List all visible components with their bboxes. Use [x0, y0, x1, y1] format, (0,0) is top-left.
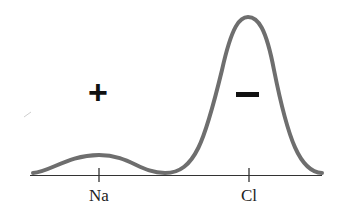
density-curve [33, 17, 322, 173]
positive-charge-sign: + [88, 73, 108, 111]
electron-density-diagram: + Na Cl [0, 0, 338, 214]
label-na: Na [89, 186, 109, 205]
negative-charge-sign [236, 92, 259, 97]
stray-mark [24, 112, 31, 117]
label-cl: Cl [241, 186, 257, 205]
